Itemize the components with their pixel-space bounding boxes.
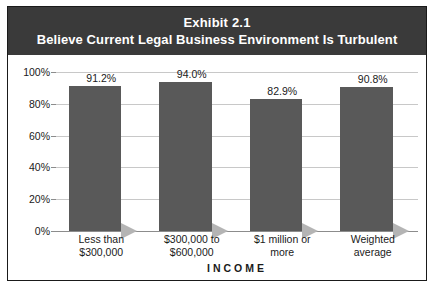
bar bbox=[250, 99, 302, 231]
y-axis-tick-label: 20% bbox=[10, 193, 50, 205]
y-axis-tick-mark bbox=[51, 72, 56, 73]
bar-value-label: 91.2% bbox=[56, 72, 147, 84]
y-axis-tick-label: 80% bbox=[10, 98, 50, 110]
bar bbox=[159, 82, 211, 231]
bar bbox=[340, 87, 392, 231]
exhibit-title: Believe Current Legal Business Environme… bbox=[37, 31, 398, 48]
x-axis-category-label: $1 million ormore bbox=[237, 233, 328, 258]
y-axis-tick-mark bbox=[51, 104, 56, 105]
x-axis-title: INCOME bbox=[56, 262, 418, 274]
y-axis-tick-label: 60% bbox=[10, 130, 50, 142]
x-axis-category-label: Weightedaverage bbox=[328, 233, 419, 258]
bar-value-label: 90.8% bbox=[328, 73, 419, 85]
title-banner: Exhibit 2.1 Believe Current Legal Busine… bbox=[8, 7, 426, 55]
y-axis-tick-mark bbox=[51, 167, 56, 168]
exhibit-number: Exhibit 2.1 bbox=[183, 14, 250, 31]
y-axis-labels: 0%20%40%60%80%100% bbox=[8, 55, 50, 280]
x-axis-category-label: Less than$300,000 bbox=[56, 233, 147, 258]
y-axis-tick-mark bbox=[51, 231, 56, 232]
exhibit-figure: Exhibit 2.1 Believe Current Legal Busine… bbox=[0, 0, 434, 288]
bar bbox=[69, 86, 121, 231]
y-axis-tick-mark bbox=[51, 199, 56, 200]
y-axis-tick-label: 40% bbox=[10, 161, 50, 173]
x-axis-category-label: $300,000 to$600,000 bbox=[147, 233, 238, 258]
y-axis-tick-label: 100% bbox=[10, 66, 50, 78]
plot-area: 0%20%40%60%80%100% 91.2%94.0%82.9%90.8% … bbox=[8, 55, 426, 280]
y-axis-tick-mark bbox=[51, 136, 56, 137]
y-axis-tick-label: 0% bbox=[10, 225, 50, 237]
bar-value-label: 82.9% bbox=[237, 85, 328, 97]
bar-value-label: 94.0% bbox=[147, 68, 238, 80]
